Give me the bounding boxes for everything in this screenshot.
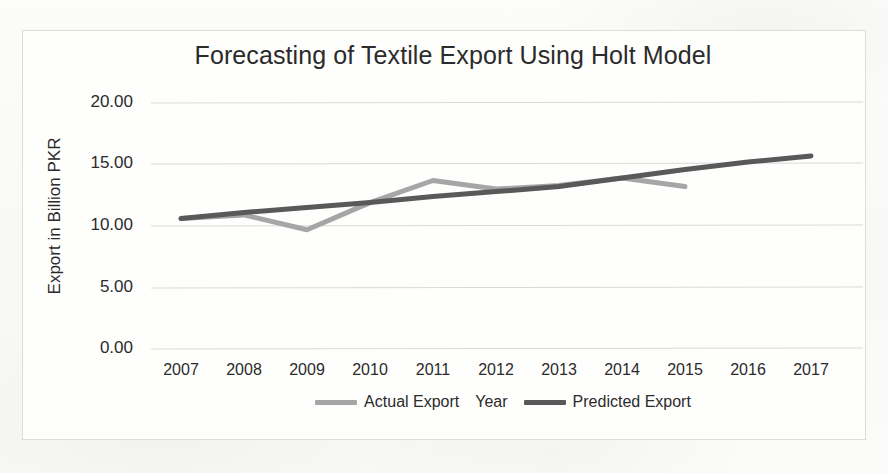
x-tick-label: 2016 (717, 361, 779, 379)
legend-item-predicted-export[interactable]: Predicted Export (524, 393, 691, 411)
x-tick-label: 2015 (654, 361, 716, 379)
chart-container: Forecasting of Textile Export Using Holt… (22, 30, 866, 440)
x-tick-label: 2013 (528, 361, 590, 379)
x-tick-label: 2017 (780, 361, 842, 379)
scanned-page: Forecasting of Textile Export Using Holt… (0, 0, 888, 473)
series-line-actual-export (181, 178, 685, 230)
x-tick-label: 2008 (213, 361, 275, 379)
x-tick-label: 2007 (150, 361, 212, 379)
x-tick-label: 2010 (339, 361, 401, 379)
legend-item-actual-export[interactable]: Actual Export (315, 393, 459, 411)
gridlines (151, 102, 863, 349)
legend-label-predicted-export: Predicted Export (573, 393, 691, 411)
legend-label-actual-export: Actual Export (364, 393, 459, 411)
legend-swatch-predicted-export (524, 400, 566, 405)
x-tick-label: 2009 (276, 361, 338, 379)
legend-swatch-actual-export (315, 400, 357, 405)
plot-area (23, 31, 867, 441)
x-tick-label: 2011 (402, 361, 464, 379)
chart-legend: Actual Export Year Predicted Export (223, 393, 783, 411)
x-tick-label: 2012 (465, 361, 527, 379)
x-tick-label: 2014 (591, 361, 653, 379)
x-axis-title: Year (469, 393, 513, 411)
